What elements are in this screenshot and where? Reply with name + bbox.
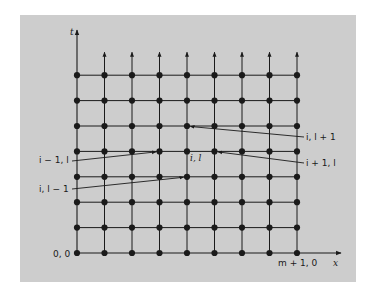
grid-node [74,225,80,231]
grid-node [74,199,80,205]
grid-node [294,72,300,78]
grid-node [239,148,245,154]
end-label: m + 1, 0 [278,258,317,268]
grid-node [211,250,217,256]
pointer-arrow [72,177,184,189]
grid-node [129,199,135,205]
grid-node [211,225,217,231]
pointer-arrow [218,152,304,163]
grid-node [239,72,245,78]
grid-node [156,148,162,154]
label-i-minus-1-l: i − 1, l [39,155,69,165]
grid-node [129,225,135,231]
grid-node [184,199,190,205]
grid-node [156,174,162,180]
grid-node [294,174,300,180]
grid-node [184,225,190,231]
grid-node [294,123,300,129]
grid-node [184,123,190,129]
grid-node [129,98,135,104]
pointer-arrow [191,127,305,138]
grid-node [294,148,300,154]
grid-node [211,123,217,129]
grid-node [184,72,190,78]
grid-node [129,123,135,129]
grid-node [294,199,300,205]
grid-node [129,148,135,154]
t-axis-label: t [70,27,74,37]
grid-node [239,250,245,256]
grid-node [129,250,135,256]
label-i-l-plus-1: i, l + 1 [306,132,336,142]
grid-node [156,250,162,256]
grid-node [74,250,80,256]
grid-node [266,123,272,129]
grid-node [74,72,80,78]
grid-node [129,174,135,180]
grid-node [101,72,107,78]
grid-node [156,72,162,78]
grid-node [101,123,107,129]
grid-node [294,225,300,231]
grid-node [266,98,272,104]
grid-node [184,250,190,256]
grid-node [156,199,162,205]
axes [77,30,341,253]
grid-node [129,72,135,78]
grid-node [184,174,190,180]
x-axis-label: x [333,258,338,268]
center-node-label: i, l [190,153,202,163]
grid-node [239,98,245,104]
grid-node [74,148,80,154]
grid-node [101,98,107,104]
grid-node [266,199,272,205]
grid-node [211,148,217,154]
grid-node [211,98,217,104]
grid-node [101,174,107,180]
grid-node [239,174,245,180]
grid-node [266,174,272,180]
grid-node [211,72,217,78]
grid-node [101,148,107,154]
grid-node [74,123,80,129]
origin-label: 0, 0 [53,249,70,259]
grid-node [266,225,272,231]
grid-node [74,98,80,104]
grid-node [74,174,80,180]
grid-node [266,250,272,256]
label-i-l-minus-1: i, l − 1 [39,184,69,194]
grid-node [211,199,217,205]
grid-node [294,250,300,256]
grid-node [184,98,190,104]
grid-diagram: t x 0, 0 m + 1, 0 i, l i, l + 1 i − 1, l… [0,0,372,292]
grid-node [294,98,300,104]
grid-node [239,123,245,129]
label-i-plus-1-l: i + 1, l [306,158,336,168]
grid-node [266,148,272,154]
grid-node [239,199,245,205]
grid-node [156,225,162,231]
grid-node [239,225,245,231]
grid-node [101,225,107,231]
pointer-arrow [72,152,156,161]
grid-node [101,250,107,256]
grid-node [156,123,162,129]
grid-node [101,199,107,205]
grid-node [156,98,162,104]
grid-node [266,72,272,78]
grid-node [211,174,217,180]
